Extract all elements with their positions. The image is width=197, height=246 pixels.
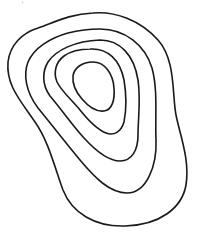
contour-line-outer xyxy=(8,13,187,226)
speck-mark xyxy=(22,2,23,3)
contour-line-inner xyxy=(73,62,114,111)
contour-line-2 xyxy=(26,29,156,193)
contour-diagram xyxy=(0,0,197,246)
contour-line-3 xyxy=(44,40,140,161)
